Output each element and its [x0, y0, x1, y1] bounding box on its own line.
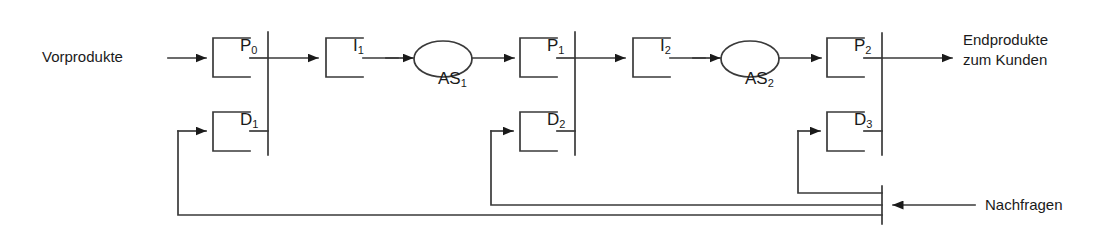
label-node-as2: AS2 [727, 47, 774, 112]
label-node-i1-sub: 1 [358, 44, 364, 56]
label-node-as1: AS1 [420, 47, 467, 112]
label-node-p1-base: P [547, 36, 558, 55]
label-endprodukte-line1: Endprodukte [963, 31, 1048, 50]
label-node-i1: I1 [334, 14, 364, 79]
diagram-canvas: Vorprodukte Endprodukte zum Kunden Nachf… [0, 0, 1095, 236]
label-node-d3-sub: 3 [866, 118, 872, 130]
label-node-as1-sub: 1 [461, 77, 467, 89]
label-node-d2-base: D [547, 110, 559, 129]
label-node-d1-sub: 1 [252, 118, 258, 130]
label-node-as1-base: AS [438, 69, 461, 88]
label-node-p2: P2 [835, 14, 871, 79]
label-nachfragen: Nachfragen [985, 196, 1063, 215]
label-node-p2-sub: 2 [865, 44, 871, 56]
label-node-p1-sub: 1 [558, 44, 564, 56]
label-node-p1: P1 [528, 14, 564, 79]
label-node-as2-base: AS [745, 69, 768, 88]
label-node-p0: P0 [221, 14, 257, 79]
label-node-d3-base: D [854, 110, 866, 129]
label-node-p0-base: P [240, 36, 251, 55]
label-vorprodukte: Vorprodukte [42, 48, 123, 67]
label-node-d1: D1 [221, 88, 258, 153]
label-node-i2-sub: 2 [665, 44, 671, 56]
label-node-d3: D3 [835, 88, 872, 153]
label-node-d1-base: D [240, 110, 252, 129]
label-node-i2: I2 [641, 14, 671, 79]
label-node-p0-sub: 0 [251, 44, 257, 56]
label-node-as2-sub: 2 [768, 77, 774, 89]
label-node-p2-base: P [854, 36, 865, 55]
label-node-d2-sub: 2 [559, 118, 565, 130]
label-node-d2: D2 [528, 88, 565, 153]
label-endprodukte-line2: zum Kunden [963, 51, 1047, 70]
